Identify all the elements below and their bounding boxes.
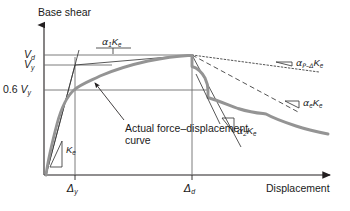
alpha2-k-sub: e (253, 130, 257, 137)
slope-label-alpha-p-delta-ke: αP–ΔKe (296, 57, 323, 69)
actual-curve-annotation-line2: curve (125, 134, 248, 146)
x-axis-title: Displacement (266, 182, 330, 194)
y-tick-label-06vy: 0.6 Vy (3, 83, 31, 97)
slope-triangle-alpha-e-ke (285, 101, 299, 108)
delta-y-sub: y (74, 188, 77, 195)
alphapd-k-sub: e (320, 62, 324, 69)
idealized-bilinear-curve (46, 55, 192, 175)
actual-curve-annotation: Actual force–displacement curve (125, 122, 248, 147)
force-displacement-diagram: Base shear Displacement Vd Vy 0.6 Vy Δy … (0, 0, 350, 211)
slope-label-ke: Ke (66, 144, 76, 156)
x-tick-label-delta-d: Δd (184, 182, 195, 196)
slope-tick-alpha1-ke (96, 48, 131, 54)
alpha1-k-sub: e (118, 41, 122, 48)
prefix-06: 0.6 (3, 83, 21, 95)
x-tick-label-delta-y: Δy (67, 182, 78, 196)
slope-label-alpha-e-ke: αeKe (303, 97, 323, 109)
ke-k-sub: e (72, 149, 76, 156)
y-axis-title: Base shear (38, 6, 91, 18)
06vy-base: V (21, 83, 28, 95)
actual-curve-annotation-line1: Actual force–displacement (125, 122, 248, 134)
alphae-k-sub: e (319, 102, 323, 109)
slope-triangle-alpha-p-delta-ke (276, 62, 292, 66)
delta-d-sub: d (191, 188, 195, 195)
x-tick-marks (75, 175, 192, 180)
annotation-leader-line (95, 83, 124, 120)
effective-stiffness-line (46, 50, 79, 175)
diagram-canvas (0, 0, 350, 211)
slope-label-alpha1-ke: α1Ke (102, 36, 122, 48)
06vy-sub: y (28, 89, 31, 96)
alphapd-sub: P–Δ (302, 62, 313, 69)
vy-base: V (24, 58, 31, 70)
y-tick-label-vy: Vy (24, 58, 34, 72)
actual-force-displacement-curve (46, 56, 328, 176)
vy-sub: y (31, 64, 34, 71)
